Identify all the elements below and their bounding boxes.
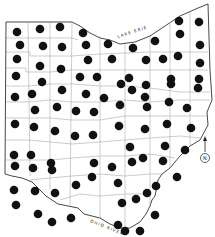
county-dot xyxy=(72,107,81,116)
county-dot xyxy=(128,158,137,167)
county-dot xyxy=(142,81,151,90)
county-dot xyxy=(76,73,85,82)
county-dot xyxy=(58,86,67,95)
county-dot xyxy=(187,124,196,133)
county-dot xyxy=(141,93,150,102)
county-dot xyxy=(11,162,20,171)
county-dot xyxy=(125,74,134,83)
county-dot xyxy=(141,125,150,134)
county-dot xyxy=(53,103,62,112)
county-dot xyxy=(115,122,124,131)
county-dot xyxy=(28,90,37,99)
county-dot xyxy=(196,59,205,68)
county-dot xyxy=(151,211,160,220)
county-dot xyxy=(90,159,99,168)
county-dot xyxy=(114,179,123,188)
county-dot xyxy=(90,108,99,117)
county-dot xyxy=(82,90,91,99)
county-dot xyxy=(139,154,148,163)
county-dot xyxy=(36,62,45,71)
county-dot xyxy=(183,104,192,113)
county-dot xyxy=(51,189,60,198)
county-dot xyxy=(84,56,93,65)
county-dot xyxy=(30,123,39,132)
county-dot xyxy=(167,80,176,89)
county-dot xyxy=(31,106,40,115)
county-dot xyxy=(174,52,183,61)
county-dot xyxy=(163,120,172,129)
county-dot xyxy=(108,163,117,172)
county-dot xyxy=(11,93,20,102)
county-dot xyxy=(126,143,135,152)
county-dot xyxy=(116,101,125,110)
county-dots xyxy=(10,17,205,236)
county-dot xyxy=(175,17,184,26)
county-dot xyxy=(13,55,22,64)
county-dot xyxy=(56,23,65,32)
county-dot xyxy=(27,151,36,160)
county-dot xyxy=(159,55,168,64)
county-dot xyxy=(10,186,19,195)
county-dot xyxy=(89,131,98,140)
county-dot xyxy=(129,44,138,53)
county-dot xyxy=(51,127,60,136)
county-dot xyxy=(136,227,145,236)
county-dot xyxy=(165,98,174,107)
county-dot xyxy=(143,103,152,112)
county-dot xyxy=(10,151,19,160)
county-dot xyxy=(67,214,76,223)
county-dot xyxy=(93,73,102,82)
county-dot xyxy=(196,41,205,50)
county-dot xyxy=(13,28,22,37)
county-dot xyxy=(88,173,97,182)
county-dot xyxy=(12,72,21,81)
county-dot xyxy=(118,199,127,208)
county-dot xyxy=(128,86,137,95)
county-dot xyxy=(195,18,204,27)
county-dot xyxy=(29,164,38,173)
county-dot xyxy=(176,30,185,39)
county-dot xyxy=(161,142,170,151)
ohio-county-map: LAKE ERIE OHIO RIVER N xyxy=(0,0,215,237)
county-dot xyxy=(151,37,160,46)
county-dot xyxy=(31,187,40,196)
county-dot xyxy=(11,120,20,129)
county-dot xyxy=(117,80,126,89)
county-dot xyxy=(195,75,204,84)
county-dot xyxy=(58,43,67,52)
county-dot xyxy=(38,78,47,87)
county-dot xyxy=(36,25,45,34)
county-dot xyxy=(104,40,113,49)
county-dot xyxy=(57,65,66,74)
county-dot xyxy=(48,166,57,175)
county-dot xyxy=(100,94,109,103)
county-dot xyxy=(159,157,168,166)
county-dot xyxy=(152,182,161,191)
county-dot xyxy=(142,56,151,65)
county-dot xyxy=(143,189,152,198)
county-dot xyxy=(34,210,43,219)
county-dot xyxy=(72,181,81,190)
county-dot xyxy=(194,84,203,93)
north-arrow-icon: N xyxy=(201,136,210,163)
county-dot xyxy=(79,29,88,38)
county-dot xyxy=(132,195,141,204)
north-label: N xyxy=(203,155,207,161)
county-dot xyxy=(39,42,48,51)
county-dot xyxy=(71,132,80,141)
lake-erie-label: LAKE ERIE xyxy=(117,25,148,39)
county-dot xyxy=(12,201,21,210)
county-dot xyxy=(173,173,182,182)
county-dot xyxy=(181,146,190,155)
county-dot xyxy=(108,55,117,64)
county-dot xyxy=(16,41,25,50)
county-dot xyxy=(82,41,91,50)
county-dot xyxy=(48,218,57,227)
